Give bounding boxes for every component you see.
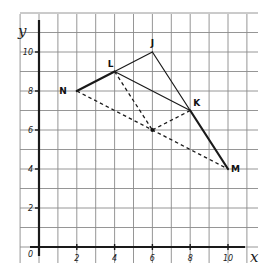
point-label-j: J: [150, 38, 154, 48]
point-label-l: L: [108, 59, 114, 69]
axes: x y 0: [17, 20, 259, 266]
x-tick-label: 2: [74, 254, 79, 263]
origin-label: 0: [28, 250, 33, 259]
y-tick-label: 10: [23, 48, 33, 57]
ticks: 246810246810: [23, 48, 233, 263]
grid: [20, 13, 258, 263]
point-label-k: K: [193, 98, 201, 108]
y-axis-label: y: [17, 22, 27, 40]
x-axis-label: x: [250, 248, 259, 266]
x-tick-label: 6: [150, 254, 155, 263]
y-tick-label: 4: [28, 165, 33, 174]
x-tick-label: 8: [188, 254, 193, 263]
points: NLJKM: [59, 38, 240, 174]
point-label-n: N: [59, 86, 67, 96]
coordinate-diagram: x y 0 246810246810 NLJKM: [0, 0, 272, 271]
point-marker: [150, 128, 154, 132]
y-tick-label: 6: [28, 126, 33, 135]
point-label-m: M: [231, 164, 240, 174]
x-tick-label: 10: [223, 254, 233, 263]
y-tick-label: 8: [28, 87, 33, 96]
y-tick-label: 2: [28, 204, 33, 213]
x-tick-label: 4: [112, 254, 117, 263]
